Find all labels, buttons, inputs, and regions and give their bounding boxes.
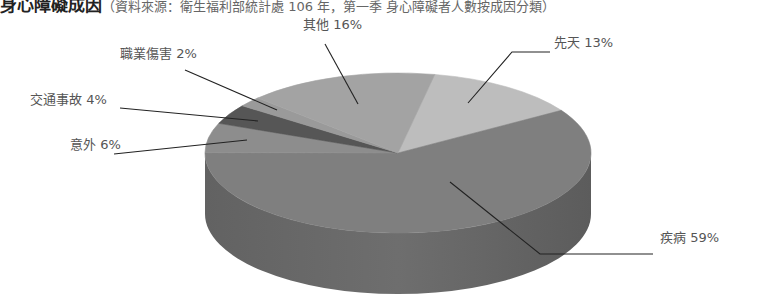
slice-label: 意外 6% [70,137,121,153]
leader-line [185,70,277,110]
slice-label: 交通事故 4% [30,92,107,108]
slice-label: 先天 13% [554,35,613,51]
slice-label: 其他 16% [303,17,362,33]
pie-chart: 先天 13%疾病 59%意外 6%交通事故 4%職業傷害 2%其他 16% [0,0,758,308]
slice-label: 疾病 59% [660,230,719,246]
slice-label: 職業傷害 2% [120,46,197,62]
